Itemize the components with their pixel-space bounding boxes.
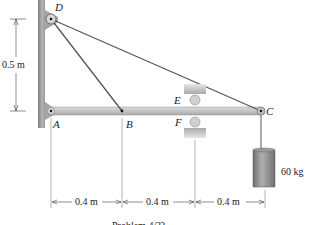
roller-e-icon <box>190 95 200 105</box>
dim-bf-label: 0.4 m <box>146 196 169 207</box>
wall <box>38 0 45 128</box>
label-e: E <box>173 94 181 106</box>
pin-b-icon <box>121 110 124 113</box>
roller-f-icon <box>190 117 200 127</box>
dim-fc-label: 0.4 m <box>217 196 240 207</box>
support-f <box>184 128 206 138</box>
label-a: A <box>52 118 60 130</box>
label-f: F <box>174 116 182 128</box>
extension-lines <box>51 118 265 208</box>
label-b: B <box>126 118 133 130</box>
mass-block <box>253 150 275 187</box>
figure-caption: Problem 4/?? <box>112 220 166 225</box>
mass-label: 60 kg <box>281 166 304 177</box>
dim-ab-label: 0.4 m <box>75 196 98 207</box>
beam-ac <box>47 107 265 115</box>
truss-diagram: 0.5 m 60 kg 0.4 m 0.4 m 0. <box>0 0 310 225</box>
cable-dc <box>51 19 261 111</box>
member-db <box>51 19 122 111</box>
label-c: C <box>266 105 274 117</box>
support-e <box>184 84 206 94</box>
vertical-dimension-label: 0.5 m <box>2 59 25 70</box>
label-d: D <box>54 1 63 13</box>
